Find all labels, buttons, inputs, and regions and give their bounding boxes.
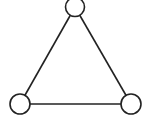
node-top [66,0,85,17]
node-bottom-right [121,94,141,114]
graph-edges [20,7,131,104]
graph-nodes [10,0,141,114]
edge-top-bottom-left [20,7,75,104]
edge-top-bottom-right [75,7,131,104]
node-bottom-left [10,94,30,114]
triangle-graph-diagram [0,0,147,131]
